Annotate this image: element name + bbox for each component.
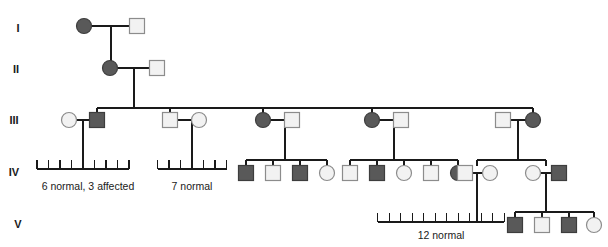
individual-III-6-male-unaffected[interactable] — [285, 113, 300, 128]
individual-IV-8-male-unaffected[interactable] — [424, 166, 439, 181]
individual-IV-5-male-unaffected[interactable] — [343, 166, 358, 181]
individual-I-2-male-unaffected[interactable] — [130, 19, 145, 34]
individual-III-4-female-unaffected[interactable] — [192, 113, 207, 128]
sibship-label-2: 7 normal — [172, 180, 213, 192]
individual-III-2-male-affected[interactable] — [90, 113, 105, 128]
individual-symbols — [62, 19, 602, 233]
individual-IV-11-female-unaffected[interactable] — [483, 166, 498, 181]
individual-IV-7-female-unaffected[interactable] — [397, 166, 412, 181]
individual-I-1-female-affected[interactable] — [77, 19, 92, 34]
generation-label-II: II — [13, 63, 19, 75]
pedigree-chart: IIIIIIIVV6 normal, 3 affected7 normal12 … — [0, 0, 608, 247]
individual-IV-4-female-unaffected[interactable] — [320, 166, 335, 181]
individual-III-5-female-affected[interactable] — [256, 113, 271, 128]
individual-III-7-female-affected[interactable] — [365, 113, 380, 128]
pedigree-canvas: IIIIIIIVV6 normal, 3 affected7 normal12 … — [0, 0, 608, 247]
individual-V-3-male-affected[interactable] — [562, 218, 577, 233]
generation-label-V: V — [14, 218, 22, 230]
individual-III-8-male-unaffected[interactable] — [394, 113, 409, 128]
individual-II-1-female-affected[interactable] — [103, 61, 118, 76]
individual-V-4-female-unaffected[interactable] — [587, 218, 602, 233]
individual-IV-3-male-affected[interactable] — [293, 166, 308, 181]
individual-III-1-female-unaffected[interactable] — [62, 113, 77, 128]
individual-IV-10-male-unaffected[interactable] — [458, 166, 473, 181]
individual-III-10-female-affected[interactable] — [526, 113, 541, 128]
individual-V-1-male-affected[interactable] — [508, 218, 523, 233]
individual-III-3-male-unaffected[interactable] — [163, 113, 178, 128]
individual-IV-13-male-affected[interactable] — [552, 166, 567, 181]
sibship-label-3: 12 normal — [418, 229, 465, 241]
individual-III-9-male-unaffected[interactable] — [496, 113, 511, 128]
individual-IV-12-female-unaffected[interactable] — [526, 166, 541, 181]
individual-IV-2-male-unaffected[interactable] — [266, 166, 281, 181]
individual-II-2-male-unaffected[interactable] — [150, 61, 165, 76]
generation-label-IV: IV — [9, 166, 20, 178]
individual-IV-6-male-affected[interactable] — [370, 166, 385, 181]
individual-IV-1-male-affected[interactable] — [239, 166, 254, 181]
chart-text-labels: IIIIIIIVV6 normal, 3 affected7 normal12 … — [9, 22, 465, 241]
generation-label-III: III — [9, 114, 18, 126]
individual-V-2-male-unaffected[interactable] — [535, 218, 550, 233]
sibship-label-1: 6 normal, 3 affected — [42, 180, 135, 192]
generation-label-I: I — [16, 22, 19, 34]
